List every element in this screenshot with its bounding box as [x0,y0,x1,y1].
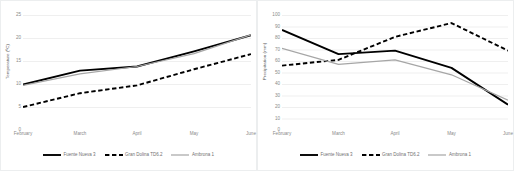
legend-temperature: Fuente Nueva 3Gran Dolina TD6.2Ambrona 1 [1,152,256,158]
y-axis-tick-labels-precipitation: 0102030405060708090100 [260,15,280,130]
y-axis-tick-label: 90 [275,24,280,29]
y-axis-tick-label: 30 [275,93,280,98]
y-axis-tick-label: 10 [16,82,21,87]
y-axis-tick-label: 70 [275,47,280,52]
legend-label: Ambrona 1 [192,153,214,158]
legend-label: Ambrona 1 [449,153,471,158]
y-axis-tick-label: 60 [275,59,280,64]
x-axis-tick-label: February [14,132,32,137]
x-axis-tick-label: April [132,132,141,137]
x-axis-tick-label: March [332,132,345,137]
legend-label: Fuente Nueva 3 [321,153,353,158]
y-axis-tick-label: 25 [16,13,21,18]
legend-label: Gran Dolina TD6.2 [382,153,419,158]
y-axis-tick-label: 40 [275,82,280,87]
y-axis-tick-label: 15 [16,59,21,64]
legend-item: Gran Dolina TD6.2 [362,152,420,158]
legend-item: Ambrona 1 [428,152,471,158]
legend-swatch-solid-gray-icon [171,152,189,158]
y-axis-tick-label: 10 [275,116,280,121]
legend-precipitation: Fuente Nueva 3Gran Dolina TD6.2Ambrona 1 [258,152,513,158]
y-axis-tick-label: 50 [275,70,280,75]
x-axis-tick-label: June [246,132,256,137]
plot-area-temperature [23,15,251,130]
x-axis-tick-label: February [273,132,291,137]
legend-item: Fuente Nueva 3 [300,152,353,158]
series-line [23,35,251,86]
legend-label: Gran Dolina TD6.2 [125,153,162,158]
legend-item: Ambrona 1 [171,152,214,158]
chart-panel-temperature: Temperature (ºC) 0510152025 FebruaryMarc… [0,0,257,171]
y-axis-tick-label: 5 [18,105,21,110]
legend-swatch-dashed-black-icon [362,152,380,158]
y-axis-tick-label: 20 [275,105,280,110]
chart-svg [23,15,251,130]
chart-panel-precipitation: Precipitation (mm) 010203040506070809010… [257,0,514,171]
y-axis-tick-label: 100 [272,13,280,18]
chart-svg [282,15,508,130]
legend-item: Fuente Nueva 3 [43,152,96,158]
legend-label: Fuente Nueva 3 [64,153,96,158]
y-axis-tick-label: 20 [16,36,21,41]
x-axis-tick-label: April [390,132,399,137]
y-axis-tick-labels-temperature: 0510152025 [3,15,21,130]
x-axis-tick-labels-temperature: FebruaryMarchAprilMayJune [23,132,251,142]
series-line [282,48,508,100]
x-axis-tick-label: June [503,132,513,137]
x-axis-tick-label: May [190,132,199,137]
legend-item: Gran Dolina TD6.2 [105,152,163,158]
legend-swatch-solid-gray-icon [428,152,446,158]
legend-swatch-solid-black-icon [300,152,318,158]
series-line [23,54,251,107]
plot-area-precipitation [282,15,508,130]
series-line [282,30,508,105]
x-axis-tick-labels-precipitation: FebruaryMarchAprilMayJune [282,132,508,142]
x-axis-tick-label: March [74,132,87,137]
legend-swatch-solid-black-icon [43,152,61,158]
y-axis-tick-label: 80 [275,36,280,41]
x-axis-tick-label: May [447,132,456,137]
legend-swatch-dashed-black-icon [105,152,123,158]
series-line [23,35,251,84]
two-panel-line-chart-figure: Temperature (ºC) 0510152025 FebruaryMarc… [0,0,514,171]
